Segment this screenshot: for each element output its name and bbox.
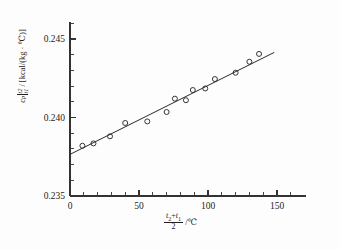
y-limit-lower: t1 xyxy=(23,89,29,94)
data-point-marker xyxy=(183,98,188,103)
x-tick-label: 50 xyxy=(134,201,144,211)
x-tick-label: 0 xyxy=(68,201,73,211)
fit-line-segment xyxy=(70,52,274,154)
data-point-marker xyxy=(190,88,195,93)
data-point-marker xyxy=(164,110,169,115)
x-tick-label: 150 xyxy=(270,201,285,211)
y-axis-ticks xyxy=(70,23,76,196)
x-axis-ticks xyxy=(70,190,291,196)
y-symbol-subscript: p xyxy=(19,96,26,99)
data-point-marker xyxy=(212,77,217,82)
x-axis-fraction: t2+t1 2 xyxy=(164,212,183,231)
x-tick-label: 100 xyxy=(201,201,216,211)
chart-figure: 050100150 0.2350.2400.245 cp t2 t1 / [kc… xyxy=(0,0,340,250)
data-point-marker xyxy=(145,119,150,124)
axes-group xyxy=(70,22,306,196)
y-tick-label: 0.235 xyxy=(44,191,66,201)
data-point-marker xyxy=(257,51,262,56)
y-symbol-c: c xyxy=(17,99,27,103)
x-num-t1-sub: 1 xyxy=(178,215,181,222)
y-tick-label: 0.240 xyxy=(44,113,66,123)
y-axis-title: cp t2 t1 / [kcal/(kg · ℃)] xyxy=(12,0,32,146)
data-point-marker xyxy=(123,120,128,125)
data-point-marker xyxy=(247,59,252,64)
y-symbol-limits: t2 t1 xyxy=(17,89,28,96)
y-axis-units: [kcal/(kg · ℃)] xyxy=(17,29,27,82)
y-axis-symbol: cp t2 t1 xyxy=(17,89,28,103)
data-point-marker xyxy=(172,96,177,101)
data-points xyxy=(80,51,262,148)
data-point-marker xyxy=(80,143,85,148)
y-tick-label: 0.245 xyxy=(44,34,66,44)
x-axis-title: t2+t1 2 /℃ xyxy=(120,212,240,231)
x-axis-units: /℃ xyxy=(185,217,197,227)
linear-fit-line xyxy=(70,52,274,154)
y-axis-slash: / xyxy=(17,84,27,86)
x-fraction-denominator: 2 xyxy=(172,223,176,231)
x-axis-tick-labels: 050100150 xyxy=(68,201,285,211)
y-axis-tick-labels: 0.2350.2400.245 xyxy=(44,34,66,201)
